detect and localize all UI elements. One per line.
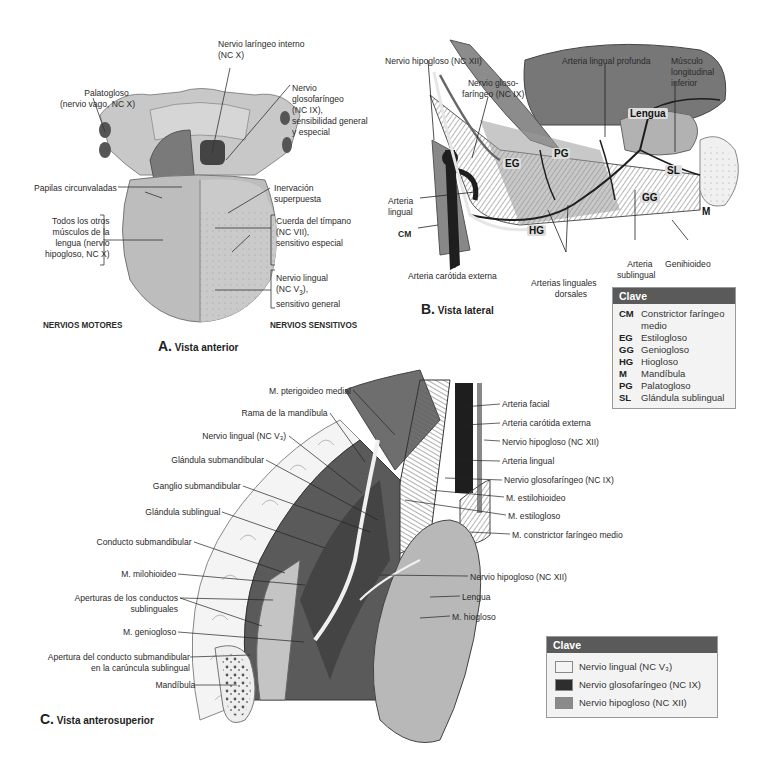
label-text: ), (303, 283, 308, 294)
key-item: HGHiogloso (619, 356, 729, 368)
key-item: EGEstilogloso (619, 332, 729, 344)
key-panel-b: Clave CMConstrictor faríngeomedio EGEsti… (612, 287, 736, 409)
label-line: Arteria (617, 258, 656, 269)
label-line: Músculo (671, 55, 714, 66)
label-line: sublingual (617, 269, 656, 280)
swatch-lingual-nerve (555, 661, 573, 673)
label-line: Todos los otros (45, 215, 110, 226)
label-line: longitudinal (671, 66, 714, 77)
label-text: (NC V (276, 283, 299, 294)
label-c-arteria-lingual: Arteria lingual (502, 455, 554, 466)
label-line: (NC V3), (276, 283, 340, 298)
label-line: hipogloso, NC X) (45, 248, 110, 259)
label-c-geniogloso: M. geniogloso (123, 626, 176, 637)
label-line: Nervio (292, 82, 368, 93)
label-c-lengua: Lengua (462, 591, 491, 602)
label-c-hiogloso: M. hiogloso (452, 611, 496, 622)
label-c-aperturas-sublinguales: Aperturas de los conductos sublinguales (74, 592, 178, 614)
tag-gg: GG (640, 192, 660, 203)
label-line: sensitivo general (276, 298, 340, 309)
label-b-genihioideo: Genihioideo (665, 258, 711, 269)
label-b-cm: CM (398, 228, 411, 239)
key-item-hipogloso: Nervio hipogloso (NC XII) (555, 697, 709, 709)
key-item-lingual: Nervio lingual (NC V₃) (555, 661, 709, 673)
label-c-estilogloso: M. estilogloso (508, 510, 560, 521)
key-text: Nervio glosofaríngeo (NC IX) (579, 679, 701, 691)
key-heading: Clave (547, 637, 717, 653)
key-heading: Clave (613, 288, 735, 304)
key-abbr: SL (619, 392, 641, 404)
label-b-arteria-lingual: Arteria lingual (388, 195, 413, 217)
label-b-carotida: Arteria carótida externa (408, 270, 497, 281)
label-c-ganglio-submandibular: Ganglio submandibular (153, 480, 241, 491)
label-c-milohioideo: M. milohioideo (121, 568, 176, 579)
label-line: superpuesta (274, 193, 321, 204)
key-item-glosofaringeo: Nervio glosofaríngeo (NC IX) (555, 679, 709, 691)
heading-nervios-sensitivos: NERVIOS SENSITIVOS (270, 320, 357, 331)
label-c-conducto-submandibular: Conducto submandibular (97, 536, 192, 547)
panel-b-title: B. Vista lateral (421, 301, 494, 317)
label-otros-musculos: Todos los otros músculos de la lengua (n… (45, 215, 110, 259)
key-text: Nervio hipogloso (NC XII) (579, 697, 687, 709)
key-abbr: GG (619, 344, 641, 356)
key-abbr: M (619, 368, 641, 380)
label-line: sensitivo especial (276, 237, 351, 248)
tag-pg: PG (552, 148, 570, 159)
label-line: Nervio lingual (276, 272, 340, 283)
label-line: dorsales (531, 288, 597, 299)
label-c-glosofaringeo: Nervio glosofaríngeo (NC IX) (504, 474, 614, 485)
key-body: Nervio lingual (NC V₃) Nervio glosofarín… (547, 653, 717, 717)
label-c-nervio-lingual: Nervio lingual (NC V₃) (202, 430, 286, 441)
label-line: sublinguales (74, 603, 178, 614)
key-body: CMConstrictor faríngeomedio EGEstiloglos… (613, 304, 735, 408)
label-line: (NC VII), (276, 226, 351, 237)
label-c-hipogloso-2: Nervio hipogloso (NC XII) (470, 571, 567, 582)
label-palatogloso: Palatogloso (nervio vago, NC X) (60, 87, 135, 109)
label-papilas: Papilas circunvaladas (34, 182, 117, 193)
key-abbr: CM (619, 308, 641, 332)
tag-lengua: Lengua (628, 108, 668, 119)
tag-eg: EG (503, 158, 521, 169)
tag-hg: HG (527, 225, 546, 236)
label-line: Arterias linguales (531, 277, 597, 288)
key-text: Mandíbula (641, 368, 685, 380)
label-c-hipogloso-1: Nervio hipogloso (NC XII) (502, 436, 599, 447)
label-line: inferior (671, 77, 714, 88)
label-line: glosofaríngeo (292, 93, 368, 104)
panel-title-text: Vista lateral (438, 305, 494, 316)
label-b-sublingual: Arteria sublingual (617, 258, 656, 280)
key-text: Glándula sublingual (641, 392, 724, 404)
tag-sl: SL (665, 165, 682, 176)
label-glosofaringeo: Nervio glosofaríngeo (NC IX), sensibilid… (292, 82, 368, 137)
panel-c-title: C. Vista anterosuperior (40, 711, 154, 727)
heading-nervios-motores: NERVIOS MOTORES (43, 320, 122, 331)
label-c-arteria-facial: Arteria facial (502, 398, 550, 409)
label-line: en la carúncula sublingual (48, 662, 190, 673)
key-item: MMandíbula (619, 368, 729, 380)
key-text: Constrictor faríngeomedio (641, 308, 724, 332)
label-c-estilohioideo: M. estilohioideo (506, 492, 565, 503)
label-line: Aperturas de los conductos (74, 592, 178, 603)
label-line: Nervio laríngeo interno (218, 38, 304, 49)
key-text: Estilogloso (641, 332, 687, 344)
key-abbr: PG (619, 380, 641, 392)
key-text-line: medio (641, 320, 667, 331)
key-abbr: EG (619, 332, 641, 344)
label-line: sensibilidad general (292, 115, 368, 126)
tag-m: M (700, 206, 712, 217)
label-c-rama-mandibula: Rama de la mandíbula (242, 407, 328, 418)
label-line: lingual (388, 206, 413, 217)
label-c-glandula-submandibular: Glándula submandibular (171, 454, 264, 465)
label-b-longitudinal: Músculo longitudinal inferior (671, 55, 714, 88)
label-line: músculos de la (45, 226, 110, 237)
label-line: faríngeo (NC IX) (462, 88, 524, 99)
label-laringeo-interno: Nervio laríngeo interno (NC X) (218, 38, 304, 60)
label-c-pterigoideo: M. pterigoideo medial (269, 385, 351, 396)
key-text-line: Constrictor faríngeo (641, 308, 724, 319)
label-b-hipogloso: Nervio hipogloso (NC XII) (385, 55, 482, 66)
label-c-mandibula: Mandíbula (155, 679, 195, 690)
tongue-anterior-art (99, 89, 300, 323)
label-line: (NC IX), (292, 104, 368, 115)
label-c-constrictor-medio: M. constrictor faríngeo medio (512, 529, 623, 540)
key-text: Geniogloso (641, 344, 689, 356)
